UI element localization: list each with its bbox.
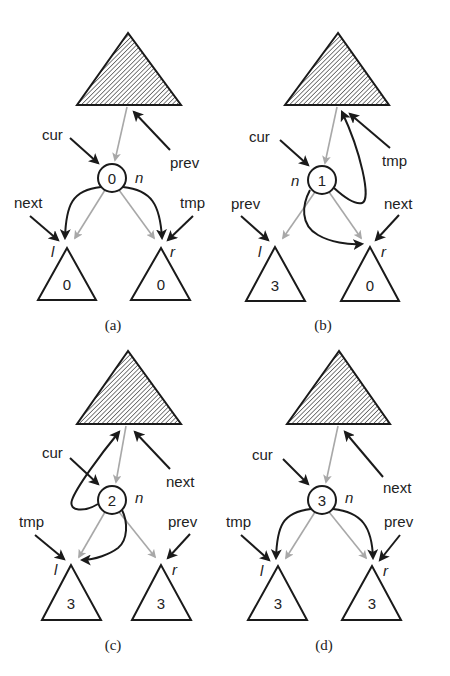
arrow-tmp	[168, 216, 193, 240]
node-value: 2	[108, 492, 116, 509]
left-subtree-value: 0	[63, 276, 71, 293]
arrow-tmp	[35, 535, 64, 559]
right-subtree-label: r	[170, 243, 176, 260]
arrow-prev	[241, 216, 268, 240]
node-label-n: n	[135, 169, 143, 186]
gray-link-n-to-l	[286, 512, 315, 558]
caption: (a)	[105, 317, 122, 334]
node-label-n: n	[345, 489, 353, 506]
arrow-tmp	[241, 535, 269, 560]
node-value: 1	[318, 172, 326, 189]
arrow-next	[376, 215, 399, 240]
label-prev: prev	[231, 195, 261, 212]
arrow-prev	[134, 112, 170, 150]
label-next: next	[14, 194, 43, 211]
right-subtree-value: 3	[157, 595, 165, 612]
caption: (b)	[314, 317, 332, 334]
label-next: next	[383, 479, 412, 496]
gray-link-parent-to-n	[325, 107, 337, 163]
right-subtree-label: r	[383, 562, 389, 579]
label-cur: cur	[42, 126, 63, 143]
panel-d: 3 n 3 l 3 r cur next tmp prev (d)	[226, 351, 414, 654]
gray-link-parent-to-n	[115, 107, 127, 160]
right-subtree-value: 0	[157, 276, 165, 293]
arrow-cur	[283, 459, 308, 484]
left-subtree-label: l	[260, 562, 264, 579]
label-cur: cur	[252, 446, 273, 463]
panel-b: 1 n 3 l 0 r cur tmp prev next (b)	[231, 33, 413, 334]
left-subtree-value: 3	[67, 595, 75, 612]
gray-link-parent-to-n	[326, 426, 338, 482]
black-link-n-to-parent	[334, 112, 366, 203]
black-link-n-to-r	[123, 187, 162, 238]
left-subtree-label: l	[258, 243, 262, 260]
right-subtree-value: 0	[366, 277, 374, 294]
parent-subtree-hatched	[77, 351, 181, 424]
label-next: next	[166, 473, 195, 490]
arrow-cur	[70, 138, 98, 163]
arrow-cur	[280, 140, 308, 165]
label-cur: cur	[42, 444, 63, 461]
caption: (c)	[105, 637, 122, 654]
black-link-n-to-l	[276, 509, 311, 558]
label-tmp: tmp	[382, 152, 407, 169]
parent-subtree-hatched	[287, 351, 390, 424]
parent-subtree-hatched	[77, 33, 181, 105]
arrow-next	[135, 432, 170, 469]
label-prev: prev	[384, 513, 414, 530]
caption: (d)	[315, 637, 333, 654]
label-next: next	[384, 195, 413, 212]
node-value: 3	[318, 492, 326, 509]
label-tmp: tmp	[19, 513, 44, 530]
left-subtree-value: 3	[274, 595, 282, 612]
panel-a: 0 n 0 l 0 r cur prev next tmp (a)	[14, 33, 205, 334]
arrow-next	[345, 432, 383, 477]
right-subtree-label: r	[172, 561, 178, 578]
gray-link-n-to-l	[79, 512, 105, 557]
parent-subtree-hatched	[285, 33, 389, 105]
label-cur: cur	[249, 128, 270, 145]
node-value: 0	[108, 170, 116, 187]
black-link-n-to-l	[82, 510, 126, 560]
black-link-n-to-r	[333, 509, 373, 558]
left-subtree-label: l	[51, 243, 55, 260]
right-subtree-value: 3	[368, 595, 376, 612]
gray-link-n-to-l	[283, 192, 315, 238]
arrow-prev	[168, 534, 190, 558]
arrow-prev	[380, 535, 400, 560]
traversal-diagram: 0 n 0 l 0 r cur prev next tmp (a) 1 n 3 …	[0, 0, 450, 676]
left-subtree-label: l	[54, 561, 58, 578]
arrow-tmp	[350, 114, 390, 148]
gray-link-n-to-l	[75, 190, 105, 238]
left-subtree-value: 3	[271, 277, 279, 294]
panel-c: 2 n 3 l 3 r cur next tmp prev (c)	[19, 351, 198, 654]
label-tmp: tmp	[180, 194, 205, 211]
arrow-next	[30, 216, 58, 240]
black-link-n-to-l	[65, 187, 101, 238]
right-subtree-label: r	[381, 243, 387, 260]
node-label-n: n	[291, 172, 299, 189]
node-label-n: n	[135, 489, 143, 506]
label-tmp: tmp	[226, 513, 251, 530]
label-prev: prev	[170, 154, 200, 171]
gray-link-n-to-r	[329, 192, 361, 238]
label-prev: prev	[168, 513, 198, 530]
